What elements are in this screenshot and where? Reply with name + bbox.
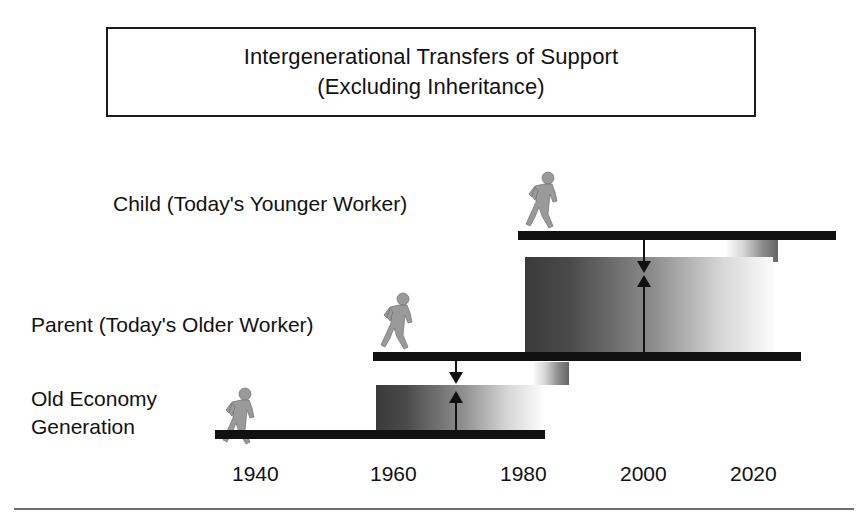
timeline-bar-parent <box>373 352 801 361</box>
year-tick-label: 2020 <box>730 461 777 487</box>
arrow-up-icon-from-parent <box>637 275 651 287</box>
arrow-down-icon-to-child <box>637 261 651 273</box>
year-tick-label: 1980 <box>500 461 547 487</box>
arrow-down-icon-to-parent <box>449 372 463 384</box>
timeline-bar-child <box>518 231 836 240</box>
intergenerational-transfers-figure: Intergenerational Transfers of Support (… <box>0 0 867 526</box>
row-label-old-economy-line-2: Generation <box>31 413 157 441</box>
year-tick-label: 2000 <box>620 461 667 487</box>
figure-title-line-2: (Excluding Inheritance) <box>317 72 544 102</box>
year-tick-label: 1960 <box>370 461 417 487</box>
row-label-old-economy: Old Economy Generation <box>31 385 157 441</box>
bottom-divider <box>14 508 854 510</box>
year-tick-label: 1940 <box>232 461 279 487</box>
walking-person-icon <box>524 170 566 232</box>
support-gradient-tail-parent <box>533 362 569 385</box>
row-label-parent: Parent (Today's Older Worker) <box>31 311 314 338</box>
row-label-child: Child (Today's Younger Worker) <box>113 190 407 217</box>
walking-person-icon <box>379 291 421 353</box>
row-label-old-economy-line-1: Old Economy <box>31 385 157 413</box>
arrow-up-icon-from-old-economy <box>449 391 463 403</box>
figure-title-box: Intergenerational Transfers of Support (… <box>106 27 756 117</box>
timeline-bar-old-economy <box>215 430 545 439</box>
arrow-up-shaft-from-old-economy <box>455 400 457 431</box>
arrow-up-shaft-from-parent <box>643 285 645 353</box>
figure-title-line-1: Intergenerational Transfers of Support <box>244 42 618 72</box>
